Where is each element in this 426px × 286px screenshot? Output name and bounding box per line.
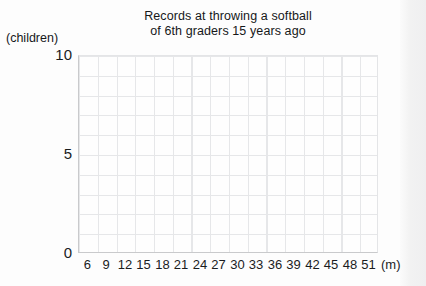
figure-canvas: Records at throwing a softball of 6th gr…	[0, 0, 426, 286]
y-axis-tick-5: 5	[32, 146, 72, 161]
chart-title-line-1: Records at throwing a softball	[78, 9, 378, 24]
plot-grid-area	[78, 55, 378, 253]
page-edge-shadow	[400, 0, 426, 286]
x-axis-tick-51: 51	[354, 258, 384, 272]
x-axis-tick-labels: 6 9 12 15 18 21 24 27 30 33 36 39 42 45 …	[78, 258, 378, 278]
y-axis-tick-10: 10	[32, 47, 72, 62]
chart-title: Records at throwing a softball of 6th gr…	[78, 9, 378, 38]
chart-title-line-2: of 6th graders 15 years ago	[78, 24, 378, 39]
x-axis-unit-label: (m)	[381, 258, 401, 272]
y-axis-tick-labels: 10 5 0	[28, 0, 72, 286]
y-axis-tick-0: 0	[32, 245, 72, 260]
